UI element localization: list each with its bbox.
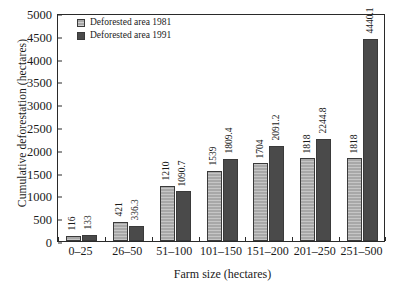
bar-value-label: 1818 (303, 134, 313, 153)
legend-label-1981: Deforested area 1981 (90, 18, 171, 28)
x-tick-label: 251–500 (341, 245, 383, 257)
x-tick-label: 51–100 (156, 245, 192, 257)
legend-item-1981: Deforested area 1981 (77, 17, 171, 29)
y-tick-label: 1000 (27, 191, 58, 204)
y-tick-mark (58, 174, 62, 175)
plot-area: Deforested area 1981 Deforested area 199… (57, 14, 385, 242)
x-tick-mark (199, 237, 200, 241)
bar-1981: 421 (113, 222, 128, 241)
x-tick-mark (245, 237, 246, 241)
x-tick-mark (105, 237, 106, 241)
y-tick-mark (58, 106, 62, 107)
legend-swatch-1991-icon (77, 32, 85, 40)
legend-swatch-1981-icon (77, 19, 85, 27)
legend-item-1991: Deforested area 1991 (77, 30, 171, 42)
bar-value-label: 133 (84, 216, 94, 230)
bar-value-label: 1704 (256, 139, 266, 158)
bar-value-label: 2244.8 (319, 108, 329, 134)
x-tick-label: 101–150 (200, 245, 242, 257)
legend-label-1991: Deforested area 1991 (90, 31, 171, 41)
y-tick-label: 500 (33, 214, 58, 227)
y-tick-mark (58, 83, 62, 84)
bar-value-label: 4440.1 (366, 7, 376, 33)
y-tick-label: 4000 (27, 54, 58, 67)
x-tick-mark (58, 237, 59, 241)
bar-value-label: 1809.4 (225, 127, 235, 153)
y-tick-mark (58, 37, 62, 38)
y-tick-mark (58, 15, 62, 16)
x-axis-title: Farm size (hectares) (55, 267, 390, 282)
y-tick-label: 1500 (27, 168, 58, 181)
bar-1981: 1539 (207, 171, 222, 241)
bar-value-label: 1539 (209, 147, 219, 166)
bar-1981: 1210 (160, 186, 175, 241)
bar-1981: 1704 (253, 163, 268, 241)
x-tick-label: 201–250 (294, 245, 336, 257)
x-tick-label: 0–25 (68, 245, 92, 257)
x-tick-mark (339, 237, 340, 241)
chart-legend: Deforested area 1981 Deforested area 199… (77, 17, 171, 43)
bar-1991: 133 (82, 235, 97, 241)
bar-value-label: 1090.7 (178, 160, 188, 186)
y-tick-mark (58, 151, 62, 152)
y-tick-label: 4500 (27, 32, 58, 45)
y-tick-mark (58, 60, 62, 61)
x-tick-label: 151–200 (247, 245, 289, 257)
x-tick-mark (292, 237, 293, 241)
y-tick-label: 3500 (27, 77, 58, 90)
bar-value-label: 1210 (162, 162, 172, 181)
bar-1981: 1818 (300, 158, 315, 241)
bar-1991: 2091.2 (269, 146, 284, 241)
y-tick-label: 0 (46, 237, 58, 250)
bar-value-label: 2091.2 (272, 115, 282, 141)
bar-value-label: 421 (115, 203, 125, 217)
bar-value-label: 1818 (350, 134, 360, 153)
x-tick-label: 26–50 (112, 245, 142, 257)
bar-1991: 2244.8 (316, 139, 331, 241)
y-tick-label: 2000 (27, 146, 58, 159)
bar-1991: 336.3 (129, 226, 144, 241)
bar-1981: 116 (66, 236, 81, 241)
y-tick-mark (58, 220, 62, 221)
bar-value-label: 336.3 (131, 199, 141, 220)
bar-value-label: 116 (68, 217, 78, 231)
x-tick-mark (152, 237, 153, 241)
y-tick-mark (58, 243, 62, 244)
y-tick-mark (58, 129, 62, 130)
y-tick-label: 5000 (27, 9, 58, 22)
bar-1991: 1090.7 (176, 191, 191, 241)
bar-1991: 4440.1 (363, 39, 378, 241)
bar-1991: 1809.4 (223, 159, 238, 242)
deforestation-bar-chart: Cumulative deforestation (hectares) Defo… (0, 0, 400, 287)
y-tick-mark (58, 197, 62, 198)
x-tick-mark (385, 237, 386, 241)
y-tick-label: 3000 (27, 100, 58, 113)
bar-1981: 1818 (347, 158, 362, 241)
y-tick-label: 2500 (27, 123, 58, 136)
